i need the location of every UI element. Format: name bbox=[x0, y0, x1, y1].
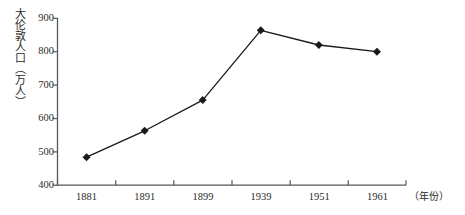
x-axis-tick-labels: 1881 1891 1899 1939 1951 1961 bbox=[0, 0, 465, 215]
x-tick-label: 1891 bbox=[115, 191, 175, 202]
x-tick-label: 1961 bbox=[347, 191, 407, 202]
x-tick-label: 1881 bbox=[57, 191, 117, 202]
x-tick-label: 1939 bbox=[231, 191, 291, 202]
line-chart: 大伦敦人口（万人） 900 800 700 600 500 400 bbox=[0, 0, 465, 215]
x-tick-label: 1951 bbox=[289, 191, 349, 202]
x-tick-label: 1899 bbox=[173, 191, 233, 202]
x-axis-unit-label: （年份） bbox=[409, 191, 449, 202]
